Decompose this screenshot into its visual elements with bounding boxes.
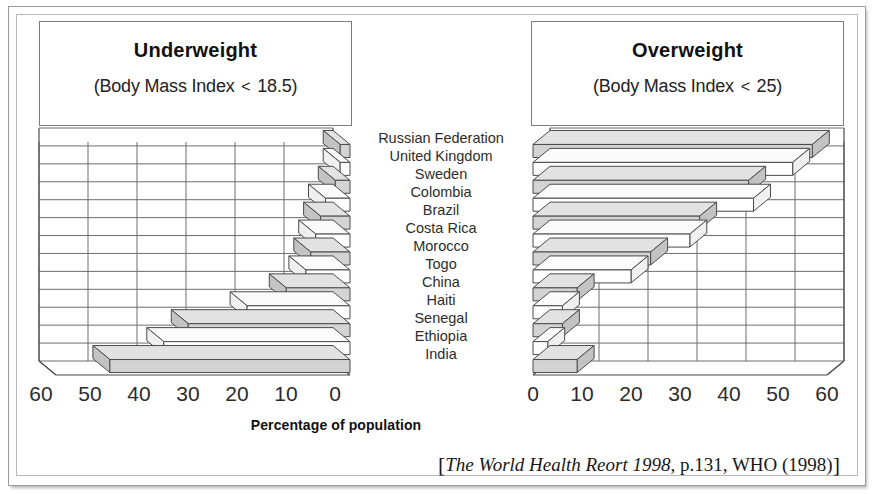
left-axis-ticks: 6050403020100 bbox=[0, 382, 392, 408]
category-label: Costa Rica bbox=[356, 221, 526, 236]
axis-tick-label: 20 bbox=[225, 382, 248, 406]
left-panel-title-box: Underweight (Body Mass Index < 18.5) bbox=[39, 21, 352, 126]
bar-shapes bbox=[531, 126, 844, 379]
bar-segment bbox=[533, 202, 717, 216]
left-subtitle-pre: (Body Mass Index bbox=[94, 76, 240, 96]
source-caption: [The World Health Reort 1998, p.131, WHO… bbox=[438, 452, 840, 478]
figure-root: Underweight (Body Mass Index < 18.5) Ove… bbox=[0, 0, 874, 494]
axis-tick-label: 50 bbox=[78, 382, 101, 406]
right-plot-area bbox=[531, 126, 844, 379]
category-label: Russian Federation bbox=[356, 131, 526, 146]
right-panel-subtitle: (Body Mass Index < 25) bbox=[532, 76, 843, 97]
bar-segment bbox=[533, 148, 810, 162]
axis-tick-label: 20 bbox=[619, 382, 642, 406]
axis-tick-label: 0 bbox=[527, 382, 539, 406]
source-title: The World Health Reort 1998 bbox=[445, 454, 670, 475]
category-label: Haiti bbox=[356, 293, 526, 308]
axis-tick-label: 40 bbox=[717, 382, 740, 406]
left-panel-subtitle: (Body Mass Index < 18.5) bbox=[40, 76, 351, 97]
right-subtitle-operator: < bbox=[739, 78, 752, 95]
left-panel-title: Underweight bbox=[40, 39, 351, 62]
bar-segment bbox=[230, 292, 350, 306]
bar-segment bbox=[533, 220, 707, 234]
right-subtitle-post: 25) bbox=[752, 76, 782, 96]
category-label: Senegal bbox=[356, 311, 526, 326]
right-panel-title-box: Overweight (Body Mass Index < 25) bbox=[531, 21, 844, 126]
category-label: Togo bbox=[356, 257, 526, 272]
source-rest: , p.131, WHO (1998) bbox=[670, 454, 832, 475]
bar-segment bbox=[93, 346, 350, 360]
axis-tick-label: 50 bbox=[766, 382, 789, 406]
bar-segment bbox=[533, 360, 577, 373]
axis-tick-label: 10 bbox=[274, 382, 297, 406]
bar-segment bbox=[533, 256, 648, 270]
axis-tick-label: 10 bbox=[570, 382, 593, 406]
bar-segment bbox=[110, 360, 350, 373]
axis-tick-label: 40 bbox=[127, 382, 150, 406]
left-plot-area bbox=[39, 126, 352, 379]
category-label: Brazil bbox=[356, 203, 526, 218]
left-bars-group bbox=[39, 126, 352, 379]
source-close-bracket: ] bbox=[833, 452, 840, 477]
axis-tick-label: 60 bbox=[815, 382, 838, 406]
right-bars-group bbox=[531, 126, 844, 379]
category-label: India bbox=[356, 347, 526, 362]
left-subtitle-post: 18.5) bbox=[252, 76, 297, 96]
bar-segment bbox=[533, 238, 668, 252]
axis-tick-label: 60 bbox=[29, 382, 52, 406]
category-label: Sweden bbox=[356, 167, 526, 182]
bar-segment bbox=[171, 310, 350, 324]
bar-segment bbox=[533, 166, 766, 180]
category-label: Morocco bbox=[356, 239, 526, 254]
bar-segment bbox=[147, 328, 350, 342]
axis-tick-label: 30 bbox=[668, 382, 691, 406]
category-label: Colombia bbox=[356, 185, 526, 200]
right-axis-ticks: 0102030405060 bbox=[492, 382, 874, 408]
right-panel-title: Overweight bbox=[532, 39, 843, 62]
category-label: China bbox=[356, 275, 526, 290]
axis-tick-label: 30 bbox=[176, 382, 199, 406]
right-subtitle-pre: (Body Mass Index bbox=[593, 76, 739, 96]
category-labels: Russian FederationUnited KingdomSwedenCo… bbox=[356, 126, 526, 379]
category-label: Ethiopia bbox=[356, 329, 526, 344]
left-subtitle-operator: < bbox=[239, 78, 252, 95]
bar-segment bbox=[533, 184, 771, 198]
bar-segment bbox=[533, 130, 829, 144]
category-label: United Kingdom bbox=[356, 149, 526, 164]
axis-tick-label: 0 bbox=[329, 382, 341, 406]
x-axis-title: Percentage of population bbox=[136, 417, 536, 433]
bar-shapes bbox=[39, 126, 352, 379]
